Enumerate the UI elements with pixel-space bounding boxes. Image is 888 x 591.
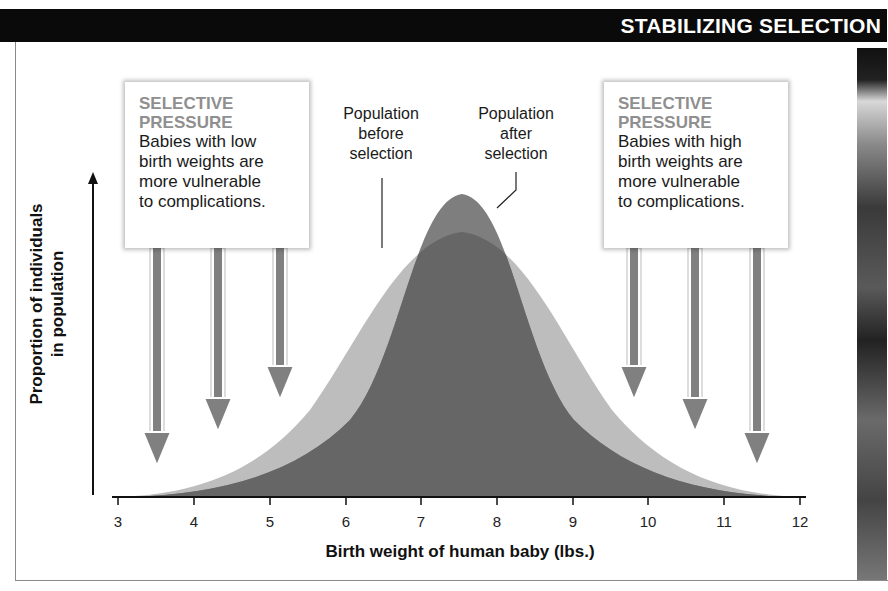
right-selective-pressure-box: SELECTIVE PRESSURE Babies with high birt… <box>604 82 788 248</box>
label-population-before: Population before selection <box>326 104 436 164</box>
down-arrow-icon <box>204 248 232 432</box>
left-selective-pressure-box: SELECTIVE PRESSURE Babies with low birth… <box>125 82 309 248</box>
right-box-body-2: birth weights are <box>618 152 788 172</box>
left-box-body-3: more vulnerable <box>139 172 309 192</box>
right-box-heading-2: PRESSURE <box>618 113 788 132</box>
right-box-body-1: Babies with high <box>618 132 788 152</box>
x-tick-label: 8 <box>482 513 512 530</box>
x-tick-label: 9 <box>558 513 588 530</box>
x-tick-label: 10 <box>633 513 663 530</box>
down-arrow-icon <box>266 248 294 400</box>
x-tick-label: 4 <box>179 513 209 530</box>
label-population-after: Population after selection <box>461 104 571 164</box>
x-tick-label: 3 <box>103 513 133 530</box>
left-box-body-1: Babies with low <box>139 132 309 152</box>
y-axis-arrowhead-icon <box>88 172 98 184</box>
left-box-body-2: birth weights are <box>139 152 309 172</box>
left-box-heading-2: PRESSURE <box>139 113 309 132</box>
down-arrow-icon <box>743 248 771 466</box>
x-axis-ticks <box>118 497 800 505</box>
left-box-heading-1: SELECTIVE <box>139 94 309 113</box>
right-box-heading-1: SELECTIVE <box>618 94 788 113</box>
left-pressure-arrows <box>143 248 294 466</box>
down-arrow-icon <box>681 248 709 432</box>
x-tick-label: 12 <box>785 513 815 530</box>
x-tick-label: 5 <box>255 513 285 530</box>
x-tick-label: 11 <box>709 513 739 530</box>
right-box-body-3: more vulnerable <box>618 172 788 192</box>
leader-line-after <box>497 172 516 208</box>
x-tick-label: 7 <box>406 513 436 530</box>
down-arrow-icon <box>143 248 171 466</box>
left-box-body-4: to complications. <box>139 192 309 212</box>
x-tick-label: 6 <box>331 513 361 530</box>
right-box-body-4: to complications. <box>618 192 788 212</box>
y-axis-label: Proportion of individuals in population <box>26 184 68 424</box>
x-axis-label: Birth weight of human baby (lbs.) <box>240 542 680 562</box>
down-arrow-icon <box>620 248 648 400</box>
right-pressure-arrows <box>620 248 771 466</box>
